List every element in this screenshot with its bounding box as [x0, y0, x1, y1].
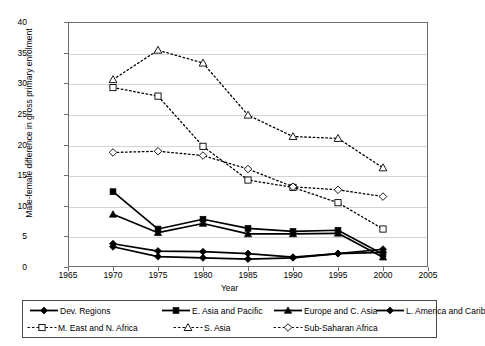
legend-row-solid: Dev. RegionsE. Asia and PacificEurope an…	[23, 302, 436, 319]
series-e-asia-and-pacific	[110, 189, 386, 257]
series-s-asia	[109, 46, 387, 170]
y-tick-mark	[64, 114, 68, 115]
data-point-marker	[154, 147, 162, 155]
data-point-marker	[244, 165, 252, 173]
data-point-marker	[155, 93, 161, 99]
data-point-marker	[199, 152, 207, 160]
legend-label: Europe and C. Asia	[304, 306, 377, 316]
y-tick-label: 15	[0, 171, 27, 180]
data-point-marker	[379, 193, 387, 201]
y-tick-label: 10	[0, 202, 27, 211]
legend-marker-diamond-hollow	[273, 322, 303, 333]
data-point-marker	[386, 307, 393, 314]
legend-label: Sub-Saharan Africa	[304, 323, 378, 333]
legend-marker-diamond-filled	[29, 305, 59, 316]
legend-label: M. East and N. Africa	[58, 323, 138, 333]
series-line	[113, 192, 383, 254]
y-tick-label: 20	[0, 141, 27, 150]
data-point-marker	[39, 324, 45, 330]
data-point-marker	[40, 307, 47, 314]
y-tick-label: 30	[0, 79, 27, 88]
series-line	[113, 50, 383, 168]
data-point-marker	[173, 308, 179, 314]
legend-item-s-asia[interactable]: S. Asia	[173, 319, 230, 336]
legend-label: E. Asia and Pacific	[192, 306, 262, 316]
y-tick-label: 5	[0, 232, 27, 241]
chart-canvas: Male-female difference in gross primary …	[0, 0, 459, 296]
y-tick-mark	[64, 83, 68, 84]
y-tick-label: 35	[0, 49, 27, 58]
series-layer	[68, 22, 428, 267]
legend-marker-diamond-filled	[375, 305, 405, 316]
data-point-marker	[380, 226, 386, 232]
data-point-marker	[284, 324, 292, 332]
legend-item-e-asia-and-pacific[interactable]: E. Asia and Pacific	[161, 302, 262, 319]
series-sub-saharan-africa	[109, 147, 387, 200]
x-axis-label: Year	[0, 283, 459, 293]
x-tick-label: 1995	[318, 271, 358, 280]
data-point-marker	[334, 250, 341, 257]
x-tick-label: 2005	[408, 271, 448, 280]
x-tick-label: 1965	[48, 271, 88, 280]
y-tick-label: 40	[0, 18, 27, 27]
legend-label: L. America and Carib	[406, 306, 485, 316]
legend-marker-triangle-hollow	[173, 322, 203, 333]
data-point-marker	[184, 324, 192, 331]
series-line	[113, 151, 383, 196]
data-point-marker	[244, 255, 251, 262]
legend-marker-square-hollow	[27, 322, 57, 333]
legend-marker-triangle-filled	[273, 305, 303, 316]
legend-label: Dev. Regions	[60, 306, 110, 316]
y-tick-mark	[64, 236, 68, 237]
y-tick-mark	[64, 53, 68, 54]
y-tick-label: 25	[0, 110, 27, 119]
data-point-marker	[110, 84, 116, 90]
data-point-marker	[289, 133, 297, 140]
data-point-marker	[109, 76, 117, 83]
x-tick-label: 1980	[183, 271, 223, 280]
y-tick-mark	[64, 206, 68, 207]
data-point-marker	[289, 254, 296, 261]
data-point-marker	[154, 46, 162, 53]
y-tick-label: 0	[0, 263, 27, 272]
x-tick-mark	[113, 267, 114, 271]
series-line	[113, 88, 383, 229]
chart-legend: Dev. RegionsE. Asia and PacificEurope an…	[22, 300, 437, 338]
data-point-marker	[110, 189, 116, 195]
x-tick-mark	[203, 267, 204, 271]
x-tick-label: 2000	[363, 271, 403, 280]
x-tick-mark	[248, 267, 249, 271]
legend-marker-square-filled	[161, 305, 191, 316]
legend-row-dotted: M. East and N. AfricaS. AsiaSub-Saharan …	[23, 319, 436, 336]
legend-item-m-east-and-n-africa[interactable]: M. East and N. Africa	[27, 319, 138, 336]
legend-item-sub-saharan-africa[interactable]: Sub-Saharan Africa	[273, 319, 378, 336]
data-point-marker	[154, 253, 161, 260]
data-point-marker	[109, 211, 116, 217]
legend-item-dev-regions[interactable]: Dev. Regions	[29, 302, 110, 319]
data-point-marker	[245, 177, 251, 183]
x-tick-mark	[158, 267, 159, 271]
x-tick-mark	[68, 267, 69, 271]
series-m-east-and-n-africa	[110, 84, 386, 232]
x-tick-label: 1975	[138, 271, 178, 280]
x-tick-label: 1985	[228, 271, 268, 280]
y-tick-mark	[64, 22, 68, 23]
data-point-marker	[379, 164, 387, 171]
x-tick-mark	[428, 267, 429, 271]
data-point-marker	[334, 186, 342, 194]
data-point-marker	[199, 254, 206, 261]
y-axis-label: Male-female difference in gross primary …	[24, 0, 34, 248]
y-tick-mark	[64, 175, 68, 176]
legend-item-europe-and-c-asia[interactable]: Europe and C. Asia	[273, 302, 377, 319]
data-point-marker	[109, 149, 117, 157]
x-tick-mark	[338, 267, 339, 271]
legend-item-l-america-and-carib[interactable]: L. America and Carib	[375, 302, 485, 319]
x-tick-label: 1990	[273, 271, 313, 280]
data-point-marker	[335, 200, 341, 206]
data-point-marker	[200, 143, 206, 149]
x-tick-mark	[293, 267, 294, 271]
x-tick-mark	[383, 267, 384, 271]
y-tick-mark	[64, 145, 68, 146]
legend-label: S. Asia	[204, 323, 230, 333]
